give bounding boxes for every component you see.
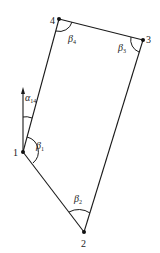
point-label-2: 2: [81, 238, 86, 249]
point-label-1: 1: [13, 147, 18, 158]
angle-arc-2: [69, 209, 90, 213]
angle-arc-4: [56, 22, 72, 31]
point-3: [141, 38, 145, 42]
point-1: [21, 150, 25, 154]
angle-label-beta1: β1: [35, 140, 44, 152]
point-4: [57, 17, 61, 21]
point-2: [82, 230, 86, 234]
edge-1-2: [23, 152, 84, 232]
angle-label-beta3: β3: [117, 42, 126, 54]
azimuth-arc: [23, 117, 32, 118]
angle-label-beta4: β4: [67, 33, 76, 45]
angle-label-beta2: β2: [73, 193, 82, 205]
point-label-3: 3: [146, 34, 151, 45]
traverse-diagram: 1 2 3 4 β1 β2 β3 β4 α14: [0, 0, 160, 253]
edge-4-1: [23, 19, 59, 152]
azimuth-label-alpha14: α14: [25, 92, 36, 104]
point-label-4: 4: [50, 15, 55, 26]
edge-2-3: [84, 40, 143, 232]
